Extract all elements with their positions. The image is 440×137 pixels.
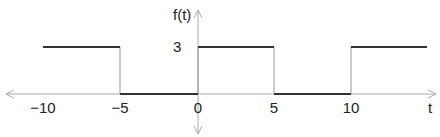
y-axis-label: f(t) (173, 6, 191, 23)
x-axis (6, 90, 436, 98)
tick-label: 10 (343, 99, 360, 116)
tick-label: −10 (30, 99, 55, 116)
tick-label: 5 (270, 99, 278, 116)
x-axis-label: t (428, 99, 433, 116)
signal (43, 47, 427, 94)
tick-label: −5 (111, 99, 128, 116)
square-wave-diagram: f(t) 3 t −10 −5 0 5 10 (0, 0, 440, 137)
tick-label: 0 (194, 99, 202, 116)
level-label: 3 (173, 38, 181, 55)
transitions (120, 47, 351, 94)
